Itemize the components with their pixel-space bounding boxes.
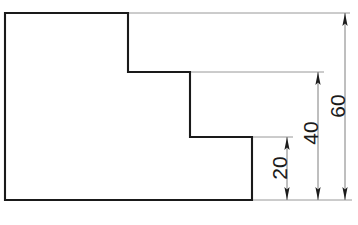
technical-drawing-canvas: 20 40 60	[0, 0, 358, 225]
drawing-svg: 20 40 60	[0, 0, 358, 225]
dimension-label-40: 40	[299, 121, 322, 144]
dimension-20: 20	[268, 137, 291, 200]
dimension-label-20: 20	[268, 156, 291, 179]
stepped-profile-outline	[5, 13, 252, 200]
dimension-60: 60	[326, 13, 349, 200]
dimension-40: 40	[299, 72, 322, 200]
dimension-label-60: 60	[326, 94, 349, 117]
